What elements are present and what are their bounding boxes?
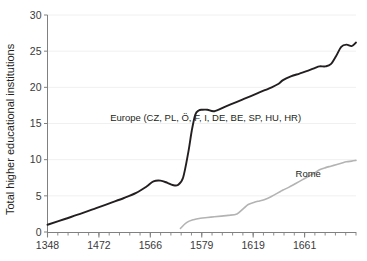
series-label-rome: Rome [296,168,321,179]
y-tick-label: 0 [36,226,42,238]
y-tick-label: 30 [30,9,42,21]
x-tick-label: 1348 [36,239,60,251]
y-tick-label: 5 [36,190,42,202]
y-tick-label: 15 [30,117,42,129]
series-label-europe: Europe (CZ, PL, Ö, F, I, DE, BE, SP, HU,… [110,112,301,123]
y-tick-label: 25 [30,45,42,57]
x-tick-label: 1661 [293,239,317,251]
x-tick-label: 1566 [139,239,163,251]
y-tick-label: 10 [30,153,42,165]
y-tick-label: 20 [30,81,42,93]
x-tick-label: 1579 [190,239,214,251]
chart-container: 051015202530 134814721566157916191661 To… [0,0,367,261]
x-tick-label: 1619 [241,239,265,251]
line-chart: 051015202530 134814721566157916191661 To… [0,0,367,261]
x-tick-label: 1472 [87,239,111,251]
y-axis-title: Total higher educational institutions [4,43,16,215]
